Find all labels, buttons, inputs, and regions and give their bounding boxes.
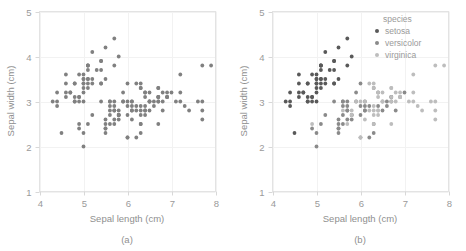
data-point xyxy=(73,82,77,86)
panel-a-points xyxy=(51,37,213,149)
data-point xyxy=(416,104,420,108)
data-point xyxy=(332,100,336,104)
data-point xyxy=(310,73,314,77)
data-point xyxy=(433,64,437,68)
data-point xyxy=(407,100,411,104)
data-point xyxy=(156,100,160,104)
data-point xyxy=(104,131,108,135)
data-point xyxy=(345,109,349,113)
data-point xyxy=(121,100,125,104)
data-point xyxy=(90,113,94,117)
data-point xyxy=(359,82,363,86)
data-point xyxy=(86,77,90,81)
data-point xyxy=(130,109,134,113)
data-point xyxy=(341,122,345,126)
panel-b-xlabel: Sepal length (cm) xyxy=(323,213,397,224)
data-point xyxy=(315,91,319,95)
series-virginica xyxy=(310,64,446,140)
data-point xyxy=(165,95,169,99)
data-point xyxy=(376,109,380,113)
panel-b-caption: (b) xyxy=(354,234,366,245)
data-point xyxy=(112,100,116,104)
data-point xyxy=(381,91,385,95)
data-point xyxy=(77,73,81,77)
data-point xyxy=(86,68,90,72)
data-point xyxy=(319,86,323,90)
data-point xyxy=(376,91,380,95)
data-point xyxy=(319,77,323,81)
y-tick-label: 2 xyxy=(259,142,264,153)
data-point xyxy=(319,122,323,126)
data-point xyxy=(372,104,376,108)
data-point xyxy=(104,77,108,81)
data-point xyxy=(130,104,134,108)
data-point xyxy=(297,95,301,99)
data-point xyxy=(112,104,116,108)
data-point xyxy=(367,82,371,86)
data-point xyxy=(86,82,90,86)
data-point xyxy=(323,77,327,81)
data-point xyxy=(381,109,385,113)
data-point xyxy=(126,136,130,140)
data-point xyxy=(345,122,349,126)
data-point xyxy=(389,95,393,99)
data-point xyxy=(55,100,59,104)
data-point xyxy=(156,86,160,90)
data-point xyxy=(99,68,103,72)
data-point xyxy=(350,113,354,117)
data-point xyxy=(161,100,165,104)
data-point xyxy=(398,91,402,95)
data-point xyxy=(394,109,398,113)
data-point xyxy=(134,109,138,113)
panel-b-points xyxy=(284,37,446,149)
x-tick-label: 7 xyxy=(403,198,408,209)
data-point xyxy=(394,100,398,104)
data-point xyxy=(139,104,143,108)
data-point xyxy=(143,95,147,99)
legend-label-setosa: setosa xyxy=(385,26,410,36)
data-point xyxy=(323,50,327,54)
data-point xyxy=(152,100,156,104)
data-point xyxy=(315,73,319,77)
data-point xyxy=(288,100,292,104)
data-point xyxy=(363,100,367,104)
data-point xyxy=(139,131,143,135)
data-point xyxy=(178,100,182,104)
data-point xyxy=(350,109,354,113)
data-point xyxy=(376,95,380,99)
x-tick-label: 8 xyxy=(447,198,452,209)
data-point xyxy=(82,145,86,149)
data-point xyxy=(64,91,68,95)
data-point xyxy=(68,91,72,95)
y-tick-label: 5 xyxy=(26,7,31,18)
data-point xyxy=(376,104,380,108)
y-tick-label: 2 xyxy=(26,142,31,153)
data-point xyxy=(310,95,314,99)
data-point xyxy=(117,55,121,59)
y-tick-label: 3 xyxy=(259,97,264,108)
data-point xyxy=(82,73,86,77)
data-point xyxy=(104,46,108,50)
data-point xyxy=(112,118,116,122)
x-tick-label: 5 xyxy=(82,198,87,209)
data-point xyxy=(156,122,160,126)
panel-b-svg: 4567812345 speciessetosaversicolorvirgin… xyxy=(233,0,466,251)
data-point xyxy=(143,91,147,95)
data-point xyxy=(332,68,336,72)
panel-b-ylabel: Sepal width (cm) xyxy=(238,66,249,137)
data-point xyxy=(117,113,121,117)
data-point xyxy=(363,104,367,108)
data-point xyxy=(108,113,112,117)
data-point xyxy=(187,109,191,113)
data-point xyxy=(126,82,130,86)
x-tick-label: 4 xyxy=(38,198,43,209)
data-point xyxy=(306,82,310,86)
data-point xyxy=(148,109,152,113)
data-point xyxy=(394,91,398,95)
data-point xyxy=(306,100,310,104)
data-point xyxy=(337,118,341,122)
data-point xyxy=(323,113,327,117)
data-point xyxy=(359,104,363,108)
data-point xyxy=(345,104,349,108)
data-point xyxy=(165,91,169,95)
